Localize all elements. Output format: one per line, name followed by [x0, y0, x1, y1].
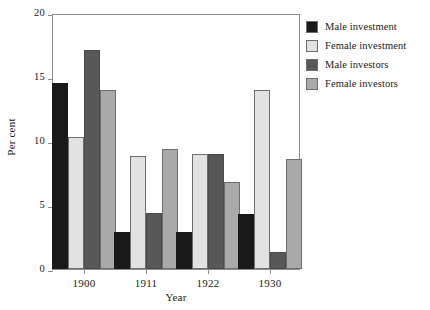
legend-item: Male investors — [306, 55, 430, 74]
y-axis-label: Per cent — [5, 107, 17, 167]
plot-area: 05101520 1900191119221930 — [52, 14, 300, 270]
legend-item: Female investment — [306, 36, 430, 55]
chart-legend: Male investmentFemale investmentMale inv… — [306, 17, 430, 93]
bar-group — [238, 15, 302, 269]
x-axis-label: Year — [52, 291, 300, 303]
y-tick-label: 15 — [21, 71, 45, 82]
legend-label: Female investors — [325, 78, 398, 89]
y-tick-mark — [48, 271, 53, 272]
x-tick-mark — [146, 269, 147, 274]
bar — [238, 214, 254, 269]
y-tick-label: 5 — [21, 199, 45, 210]
legend-swatch — [306, 59, 318, 71]
x-tick-label: 1900 — [56, 277, 112, 289]
y-tick-label: 10 — [21, 135, 45, 146]
legend-item: Male investment — [306, 17, 430, 36]
legend-swatch — [306, 21, 318, 33]
bar — [146, 213, 162, 269]
bar-chart-figure: Per cent 05101520 1900191119221930 Year … — [0, 0, 430, 310]
bar — [208, 154, 224, 269]
bar — [114, 232, 130, 269]
bar — [270, 252, 286, 269]
x-tick-label: 1922 — [180, 277, 236, 289]
bar-group — [114, 15, 178, 269]
bar-group — [52, 15, 116, 269]
legend-swatch — [306, 78, 318, 90]
bar-group — [176, 15, 240, 269]
bar — [52, 83, 68, 269]
legend-item: Female investors — [306, 74, 430, 93]
bar — [84, 50, 100, 269]
bar — [130, 156, 146, 269]
bar-series-container — [53, 15, 299, 269]
legend-label: Female investment — [325, 40, 406, 51]
bar — [176, 232, 192, 269]
y-tick-label: 0 — [21, 263, 45, 274]
x-tick-mark — [270, 269, 271, 274]
x-tick-label: 1930 — [242, 277, 298, 289]
bar — [192, 154, 208, 269]
x-tick-mark — [208, 269, 209, 274]
bar — [286, 159, 302, 269]
x-tick-mark — [84, 269, 85, 274]
legend-swatch — [306, 40, 318, 52]
x-tick-label: 1911 — [118, 277, 174, 289]
bar — [254, 90, 270, 269]
legend-label: Male investment — [325, 21, 397, 32]
bar — [68, 137, 84, 269]
y-tick-label: 20 — [21, 7, 45, 18]
legend-label: Male investors — [325, 59, 389, 70]
